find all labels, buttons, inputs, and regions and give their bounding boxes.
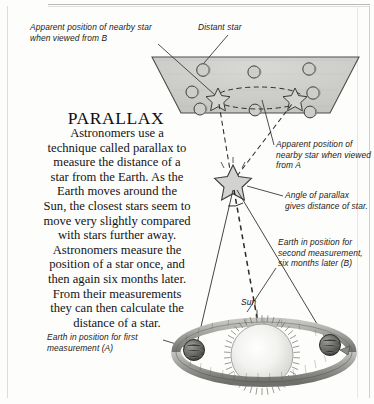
distant-star (186, 86, 199, 98)
orbit-direction-arrow (340, 346, 350, 355)
centerline (234, 190, 261, 340)
distant-star (307, 87, 321, 99)
leader-angle (247, 186, 283, 196)
body-text: Astronomers use a technique called paral… (8, 126, 226, 330)
earth-position-a (184, 340, 205, 361)
callout-apparent-position-a: Apparent position of nearby star when vi… (276, 139, 372, 171)
distant-star (303, 63, 317, 75)
earth-position-b (320, 335, 341, 356)
distant-star (304, 106, 317, 118)
callout-earth-first-measurement: Earth in position for first measurement … (47, 332, 163, 353)
callout-sun-label: Sun (241, 297, 281, 308)
callout-apparent-position-b: Apparent position of nearby star when vi… (30, 22, 162, 43)
distant-star (249, 104, 262, 116)
distant-star (248, 66, 262, 78)
callout-distant-star: Distant star (198, 22, 286, 33)
callout-earth-second-measurement: Earth in position for second measurement… (278, 237, 370, 269)
callout-angle-of-parallax: Angle of parallax gives distance of star… (285, 190, 371, 211)
parallax-illustration-page: Apparent position of nearby star when vi… (0, 0, 374, 404)
